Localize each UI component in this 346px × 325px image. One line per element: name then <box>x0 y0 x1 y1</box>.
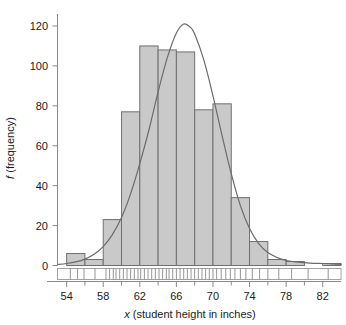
x-tick-label: 58 <box>97 290 109 302</box>
y-tick-label: 60 <box>36 140 48 152</box>
histogram-bar <box>195 110 213 266</box>
y-tick-label: 100 <box>30 60 48 72</box>
chart-canvas: 020406080100120 5458626670747882 x (stud… <box>0 0 346 325</box>
histogram-bar <box>85 260 103 266</box>
x-tick-label: 78 <box>280 290 292 302</box>
histogram-bar <box>231 198 249 266</box>
x-tick-label: 66 <box>170 290 182 302</box>
y-tick-label: 20 <box>36 220 48 232</box>
rug-plot <box>58 269 342 280</box>
x-tick-label: 82 <box>317 290 329 302</box>
x-tick-label: 62 <box>134 290 146 302</box>
x-tick-label: 74 <box>243 290 255 302</box>
histogram-figure: 020406080100120 5458626670747882 x (stud… <box>0 0 346 325</box>
rug-plot-frame <box>58 269 342 280</box>
x-tick-label: 54 <box>61 290 73 302</box>
histogram-bar <box>122 112 140 266</box>
histogram-bar <box>213 104 231 266</box>
histogram-bar <box>176 52 194 266</box>
y-tick-label: 40 <box>36 180 48 192</box>
y-tick-label: 0 <box>42 260 48 272</box>
y-axis-title: f (frequency) <box>4 117 16 179</box>
x-axis-title: x (student height in inches) <box>123 308 255 320</box>
y-tick-label: 120 <box>30 20 48 32</box>
y-tick-label: 80 <box>36 100 48 112</box>
x-tick-label: 70 <box>207 290 219 302</box>
histogram-bar <box>250 242 268 266</box>
